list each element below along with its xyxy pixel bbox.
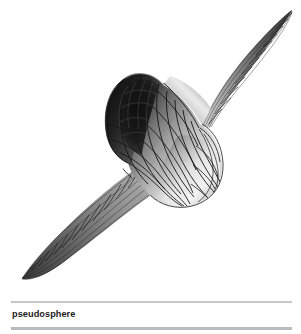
caption-rule-bottom <box>11 327 292 330</box>
upper-right-cusp <box>202 10 292 128</box>
lower-left-cusp <box>22 166 150 279</box>
pseudosphere-illustration <box>0 0 301 292</box>
figure-page: pseudosphere <box>0 0 301 334</box>
caption-rule-top <box>11 301 292 303</box>
figure-region <box>0 0 301 292</box>
figure-caption: pseudosphere <box>12 308 75 321</box>
caption-block: pseudosphere <box>0 292 301 334</box>
